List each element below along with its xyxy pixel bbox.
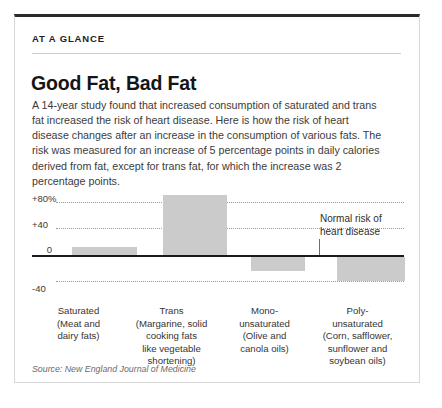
bar-mono-unsaturated xyxy=(251,257,305,271)
category-subtitle: (Olive and canola oils) xyxy=(219,330,310,355)
category-name: Trans xyxy=(126,305,217,318)
category-saturated: Saturated (Meat and dairy fats) xyxy=(32,305,125,368)
category-name: Saturated xyxy=(33,305,124,318)
bar-chart: +80% +40 0 -40 Normal risk of heart dise… xyxy=(32,189,404,309)
zero-baseline xyxy=(32,255,404,257)
at-a-glance-card: AT A GLANCE Good Fat, Bad Fat A 14-year … xyxy=(14,14,420,383)
kicker-label: AT A GLANCE xyxy=(32,33,105,44)
category-subtitle: (Margarine, solid cooking fats like vege… xyxy=(126,318,217,368)
bar-poly-unsaturated xyxy=(337,257,405,281)
kicker-divider xyxy=(32,53,401,54)
category-poly-unsaturated: Poly- unsaturated (Corn, safflower, sunf… xyxy=(311,305,404,368)
gridline-minus-40 xyxy=(56,281,404,282)
gridline-80 xyxy=(56,202,404,203)
normal-risk-annotation: Normal risk of heart disease xyxy=(320,213,382,238)
category-name: Poly- unsaturated xyxy=(312,305,403,330)
ytick-label-minus-40: -40 xyxy=(32,284,54,294)
category-subtitle: (Corn, safflower, sunflower and soybean … xyxy=(312,330,403,368)
category-subtitle: (Meat and dairy fats) xyxy=(33,318,124,343)
ytick-label-80: +80% xyxy=(32,194,54,204)
description-text: A 14-year study found that increased con… xyxy=(32,98,387,189)
category-name: Mono- unsaturated xyxy=(219,305,310,330)
page-title: Good Fat, Bad Fat xyxy=(31,72,196,95)
ytick-label-0: 0 xyxy=(32,245,52,255)
category-labels: Saturated (Meat and dairy fats) Trans (M… xyxy=(32,305,404,368)
source-credit: Source: New England Journal of Medicine xyxy=(32,364,196,374)
annotation-leader-line xyxy=(319,239,320,255)
category-trans: Trans (Margarine, solid cooking fats lik… xyxy=(125,305,218,368)
category-mono-unsaturated: Mono- unsaturated (Olive and canola oils… xyxy=(218,305,311,368)
bar-saturated xyxy=(72,247,137,255)
bar-trans xyxy=(163,195,227,255)
ytick-label-40: +40 xyxy=(32,220,54,230)
